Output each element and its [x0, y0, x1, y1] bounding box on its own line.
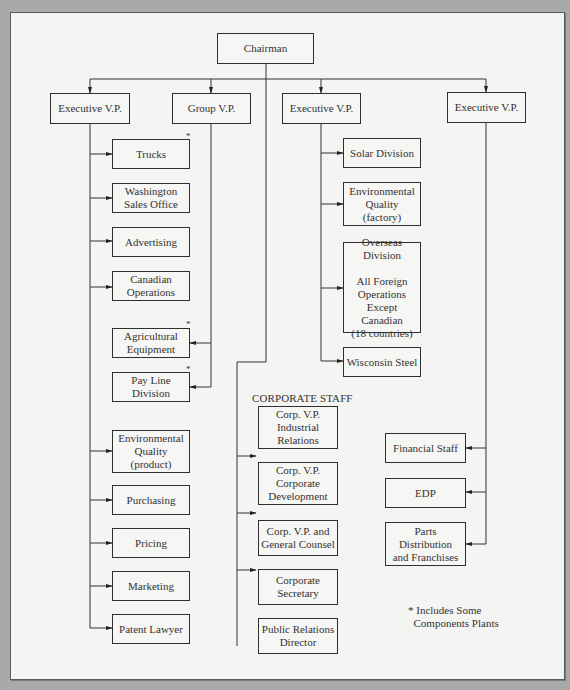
- unit-corp-vp-corporate-development: Corp. V.P. Corporate Development: [258, 462, 338, 505]
- unit-financial-staff: Financial Staff: [385, 433, 466, 463]
- asterisk-marker: *: [186, 131, 191, 141]
- executive-vp-2-label: Executive V.P.: [290, 102, 353, 115]
- unit-agricultural-equipment: Agricultural Equipment: [112, 328, 190, 358]
- asterisk-marker: *: [186, 319, 191, 329]
- unit-label: Parts Distribution and Franchises: [393, 525, 459, 564]
- unit-label: Washington Sales Office: [124, 185, 178, 211]
- unit-canadian-operations: Canadian Operations: [112, 271, 190, 301]
- unit-label: Canadian Operations: [127, 273, 175, 299]
- executive-vp-1-box: Executive V.P.: [50, 93, 130, 124]
- unit-corp-vp-general-counsel: Corp. V.P. and General Counsel: [258, 520, 338, 556]
- executive-vp-3-label: Executive V.P.: [455, 101, 518, 114]
- corporate-staff-heading: CORPORATE STAFF: [252, 392, 353, 404]
- unit-parts-distribution-franchises: Parts Distribution and Franchises: [385, 522, 466, 566]
- unit-environmental-quality-product: Environmental Quality (product): [112, 430, 190, 473]
- asterisk-marker: *: [186, 364, 191, 374]
- chairman-box: Chairman: [217, 33, 314, 64]
- unit-environmental-quality-factory: Environmental Quality (factory): [343, 182, 421, 226]
- unit-label: Agricultural Equipment: [124, 330, 178, 356]
- executive-vp-3-box: Executive V.P.: [447, 92, 526, 123]
- unit-label: Wisconsin Steel: [347, 356, 418, 369]
- unit-label: Pricing: [135, 537, 167, 550]
- unit-corp-vp-industrial-relations: Corp. V.P. Industrial Relations: [258, 406, 338, 449]
- unit-label: Environmental Quality (product): [118, 432, 183, 471]
- executive-vp-1-label: Executive V.P.: [58, 102, 121, 115]
- footnote: * Includes Some Components Plants: [408, 604, 499, 630]
- unit-solar-division: Solar Division: [343, 138, 421, 168]
- group-vp-box: Group V.P.: [172, 93, 251, 124]
- unit-marketing: Marketing: [112, 571, 190, 601]
- unit-label: Purchasing: [127, 494, 176, 507]
- unit-washington-sales-office: Washington Sales Office: [112, 183, 190, 213]
- unit-pricing: Pricing: [112, 528, 190, 558]
- unit-label: Corp. V.P. Industrial Relations: [276, 408, 320, 447]
- unit-label: Corp. V.P. Corporate Development: [268, 464, 327, 503]
- unit-label: EDP: [415, 487, 436, 500]
- executive-vp-2-box: Executive V.P.: [282, 93, 361, 124]
- unit-public-relations-director: Public Relations Director: [258, 618, 338, 654]
- unit-label: Trucks: [136, 148, 166, 161]
- unit-overseas-division: Overseas Division All Foreign Operations…: [343, 242, 421, 333]
- unit-corporate-secretary: Corporate Secretary: [258, 569, 338, 605]
- unit-label: Pay Line Division: [131, 374, 170, 400]
- unit-patent-lawyer: Patent Lawyer: [112, 614, 190, 644]
- unit-label: Public Relations Director: [262, 623, 334, 649]
- unit-label: Environmental Quality (factory): [349, 185, 414, 224]
- group-vp-label: Group V.P.: [188, 102, 236, 115]
- unit-label: Marketing: [128, 580, 174, 593]
- unit-purchasing: Purchasing: [112, 485, 190, 515]
- unit-advertising: Advertising: [112, 227, 190, 257]
- unit-label: Financial Staff: [393, 442, 458, 455]
- unit-label: Corp. V.P. and General Counsel: [261, 525, 335, 551]
- unit-trucks: Trucks: [112, 139, 190, 169]
- chairman-label: Chairman: [244, 42, 287, 55]
- unit-edp: EDP: [385, 478, 466, 508]
- unit-label: Advertising: [125, 236, 177, 249]
- unit-label: Overseas Division All Foreign Operations…: [351, 236, 412, 340]
- unit-label: Patent Lawyer: [119, 623, 183, 636]
- unit-label: Corporate Secretary: [276, 574, 320, 600]
- unit-label: Solar Division: [350, 147, 414, 160]
- unit-pay-line-division: Pay Line Division: [112, 372, 190, 402]
- unit-wisconsin-steel: Wisconsin Steel: [343, 347, 421, 377]
